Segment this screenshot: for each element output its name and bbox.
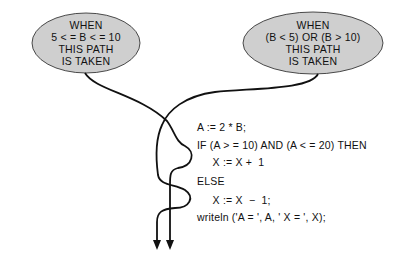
code-line-then-branch: X := X + 1 bbox=[197, 156, 264, 168]
left-arrowhead-icon bbox=[153, 240, 161, 250]
code-line-assign-a: A := 2 * B; bbox=[197, 121, 246, 133]
right-bubble-text: WHEN (B < 5) OR (B > 10) THIS PATH IS TA… bbox=[243, 19, 383, 67]
left-bubble-line: THIS PATH bbox=[32, 43, 140, 55]
code-line-if: IF (A > = 10) AND (A < = 20) THEN bbox=[197, 139, 367, 151]
right-bubble-line: (B < 5) OR (B > 10) bbox=[243, 31, 383, 43]
right-bubble-line: WHEN bbox=[243, 19, 383, 31]
right-bubble-line: IS TAKEN bbox=[243, 55, 383, 67]
right-arrowhead-icon bbox=[166, 240, 174, 250]
left-bubble-line: WHEN bbox=[32, 19, 140, 31]
left-bubble-line: IS TAKEN bbox=[32, 55, 140, 67]
left-bubble-line: 5 < = B < = 10 bbox=[32, 31, 140, 43]
right-bubble-line: THIS PATH bbox=[243, 43, 383, 55]
code-line-else: ELSE bbox=[197, 175, 225, 187]
code-line-writeln: writeln ('A = ', A, ' X = ', X); bbox=[197, 211, 326, 223]
left-bubble-text: WHEN 5 < = B < = 10 THIS PATH IS TAKEN bbox=[32, 19, 140, 67]
true-path-line bbox=[85, 73, 192, 243]
code-line-else-branch: X := X − 1; bbox=[197, 194, 271, 206]
